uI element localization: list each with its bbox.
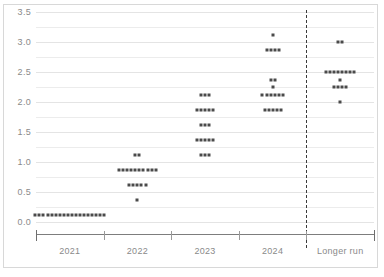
gridline-minor (36, 87, 374, 88)
x-axis-tick (36, 230, 37, 241)
data-point-dot (62, 213, 65, 216)
y-axis-tick-label: 1.5 (18, 127, 31, 137)
data-point-dot (128, 183, 131, 186)
data-point-dot (273, 48, 276, 51)
data-point-dot (265, 48, 268, 51)
data-point-dot (353, 71, 356, 74)
gridline-major (36, 72, 374, 73)
x-axis-category-label: Longer run (317, 246, 364, 256)
data-point-dot (70, 213, 73, 216)
data-point-dot (199, 93, 202, 96)
data-point-dot (138, 168, 141, 171)
data-point-dot (269, 93, 272, 96)
data-point-dot (99, 213, 102, 216)
x-axis-tick (239, 231, 240, 240)
data-point-dot (199, 123, 202, 126)
data-point-dot (341, 86, 344, 89)
data-point-dot (91, 213, 94, 216)
data-point-dot (269, 78, 272, 81)
data-point-dot (271, 33, 274, 36)
data-point-dot (204, 138, 207, 141)
data-point-dot (154, 168, 157, 171)
gridline-minor (36, 147, 374, 148)
data-point-dot (325, 71, 328, 74)
longer-run-separator (306, 10, 307, 248)
data-point-dot (337, 86, 340, 89)
data-point-dot (134, 153, 137, 156)
data-point-dot (34, 213, 37, 216)
data-point-dot (277, 48, 280, 51)
gridline-major (36, 132, 374, 133)
gridline-minor (36, 177, 374, 178)
data-point-dot (82, 213, 85, 216)
data-point-dot (103, 213, 106, 216)
data-point-dot (337, 71, 340, 74)
data-point-dot (134, 168, 137, 171)
x-axis-tick (306, 231, 307, 240)
y-axis-tick-label: 3.0 (18, 37, 31, 47)
data-point-dot (271, 86, 274, 89)
gridline-major (36, 222, 374, 223)
gridline-minor (36, 117, 374, 118)
data-point-dot (140, 183, 143, 186)
data-point-dot (273, 78, 276, 81)
data-point-dot (199, 138, 202, 141)
x-axis-category-label: 2024 (262, 246, 283, 256)
data-point-dot (87, 213, 90, 216)
y-axis-tick-label: 3.5 (18, 7, 31, 17)
data-point-dot (265, 93, 268, 96)
data-point-dot (58, 213, 61, 216)
plot-canvas: 0.00.51.01.52.02.53.03.5 (36, 12, 374, 222)
data-point-dot (333, 86, 336, 89)
data-point-dot (337, 41, 340, 44)
data-point-dot (122, 168, 125, 171)
data-point-dot (195, 108, 198, 111)
gridline-minor (36, 27, 374, 28)
data-point-dot (199, 108, 202, 111)
data-point-dot (273, 93, 276, 96)
data-point-dot (329, 71, 332, 74)
data-point-dot (195, 138, 198, 141)
data-point-dot (267, 108, 270, 111)
data-point-dot (261, 93, 264, 96)
data-point-dot (138, 153, 141, 156)
gridline-major (36, 192, 374, 193)
data-point-dot (333, 71, 336, 74)
x-axis-category-label: 2022 (127, 246, 148, 256)
y-axis-tick-label: 2.0 (18, 97, 31, 107)
data-point-dot (136, 183, 139, 186)
data-point-dot (341, 41, 344, 44)
data-point-dot (341, 71, 344, 74)
data-point-dot (204, 153, 207, 156)
y-axis-tick-label: 0.0 (18, 217, 31, 227)
gridline-minor (36, 207, 374, 208)
data-point-dot (74, 213, 77, 216)
gridline-major (36, 42, 374, 43)
data-point-dot (146, 168, 149, 171)
data-point-dot (42, 213, 45, 216)
y-axis-tick-label: 0.5 (18, 187, 31, 197)
data-point-dot (269, 48, 272, 51)
data-point-dot (277, 93, 280, 96)
data-point-dot (95, 213, 98, 216)
data-point-dot (345, 86, 348, 89)
gridline-major (36, 162, 374, 163)
data-point-dot (275, 108, 278, 111)
data-point-dot (54, 213, 57, 216)
data-point-dot (126, 168, 129, 171)
gridline-major (36, 102, 374, 103)
data-point-dot (136, 198, 139, 201)
data-point-dot (339, 101, 342, 104)
gridline-major (36, 12, 374, 13)
data-point-dot (118, 168, 121, 171)
data-point-dot (46, 213, 49, 216)
gridline-minor (36, 57, 374, 58)
data-point-dot (150, 168, 153, 171)
data-point-dot (339, 78, 342, 81)
data-point-dot (212, 108, 215, 111)
data-point-dot (38, 213, 41, 216)
data-point-dot (66, 213, 69, 216)
data-point-dot (130, 168, 133, 171)
data-point-dot (144, 183, 147, 186)
data-point-dot (281, 93, 284, 96)
